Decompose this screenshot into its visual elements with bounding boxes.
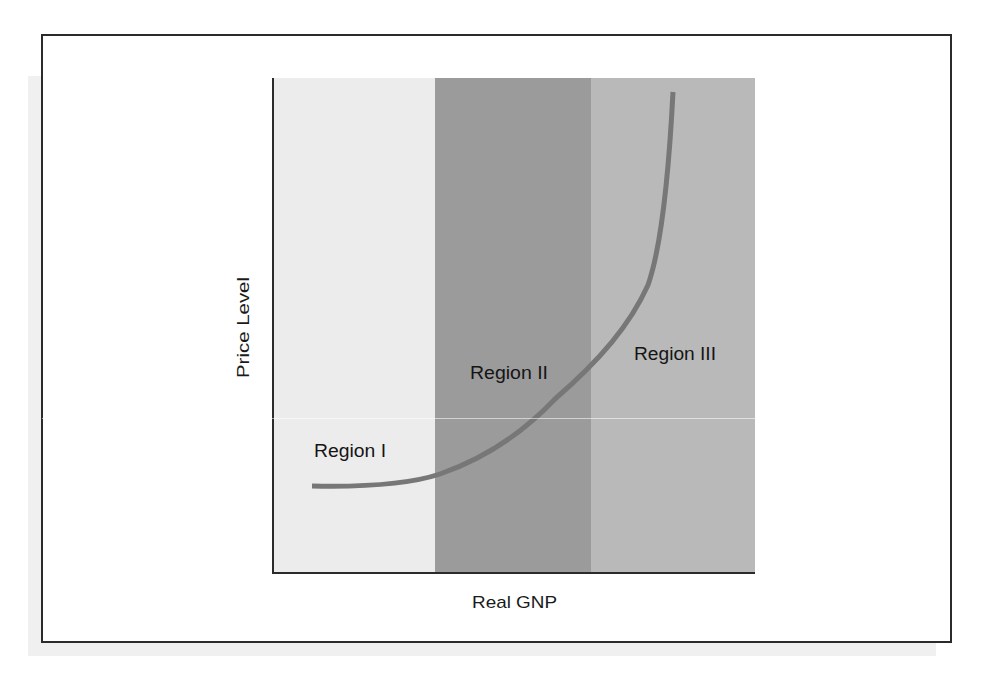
y-axis-label: Price Level <box>234 277 253 378</box>
scan-artifact-line <box>42 418 948 419</box>
chart: Region I Region II Region III Real GNP P… <box>0 0 988 673</box>
x-axis-label: Real GNP <box>472 593 557 612</box>
region-2-label: Region II <box>470 363 548 383</box>
region-1-label: Region I <box>314 441 386 461</box>
region-2-band <box>435 78 591 572</box>
region-3-label: Region III <box>634 344 716 364</box>
region-1-band <box>273 78 435 572</box>
region-3-band <box>591 78 755 572</box>
